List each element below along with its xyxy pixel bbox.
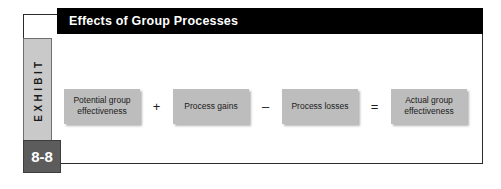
exhibit-tab-label: EXHIBIT [32,58,43,121]
exhibit-title-bar: Effects of Group Processes [57,8,483,34]
flow-box-process-losses: Process losses [282,89,358,124]
operator-plus: + [140,100,173,113]
flow-box-potential-group-effectiveness: Potential group effectiveness [64,89,140,124]
flow-box-actual-group-effectiveness-label: Actual group effectiveness [391,95,467,117]
flow-box-process-losses-label: Process losses [288,101,351,112]
flow-box-process-gains-label: Process gains [181,101,240,112]
flow-box-actual-group-effectiveness: Actual group effectiveness [391,89,467,124]
process-flow-row: Potential group effectiveness+Process ga… [64,84,474,128]
exhibit-figure: Effects of Group Processes EXHIBIT 8-8 P… [0,0,501,189]
exhibit-number-label: 8-8 [31,148,53,165]
operator-minus: – [249,100,282,113]
exhibit-number-block: 8-8 [23,140,61,173]
exhibit-title: Effects of Group Processes [69,14,238,28]
exhibit-tab: EXHIBIT [23,38,52,142]
operator-equals: = [358,100,391,113]
flow-box-potential-group-effectiveness-label: Potential group effectiveness [64,95,140,117]
flow-box-process-gains: Process gains [173,89,249,124]
